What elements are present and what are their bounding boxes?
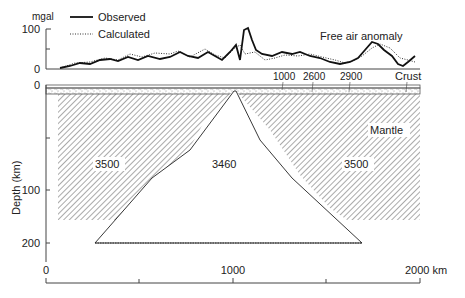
gravity-model-figure: 100 0 mgal Observed Calculated Free air … <box>0 0 465 298</box>
distance-tick-2000: 2000 km <box>405 264 447 276</box>
anomaly-title: Free air anomaly <box>320 30 403 42</box>
legend-calculated-label: Calculated <box>98 28 150 40</box>
anomaly-panel: 100 0 mgal Observed Calculated Free air … <box>22 11 420 75</box>
water-layer <box>46 85 420 88</box>
density-center-label: 3460 <box>212 158 236 170</box>
depth-tick-0: 0 <box>34 79 40 91</box>
distance-tick-0: 0 <box>43 264 49 276</box>
crust-density-2600: 2600 <box>303 71 326 82</box>
legend: Observed Calculated <box>70 11 150 40</box>
crust-label: Crust <box>395 70 421 82</box>
anomaly-tick-100: 100 <box>22 23 40 35</box>
density-left-label: 3500 <box>95 158 119 170</box>
distance-tick-1000: 1000 <box>221 264 245 276</box>
crust-density-2900: 2900 <box>340 71 363 82</box>
crust-density-1000: 1000 <box>273 71 296 82</box>
depth-tick-200: 200 <box>22 237 40 249</box>
density-model-panel: 0 100 200 Depth (km) 1000 2600 2900 Crus… <box>10 70 447 283</box>
mantle-label: Mantle <box>370 124 403 136</box>
anomaly-tick-0: 0 <box>34 63 40 75</box>
density-right-label: 3500 <box>344 158 368 170</box>
depth-tick-100: 100 <box>22 184 40 196</box>
legend-observed-label: Observed <box>98 11 146 23</box>
depth-axis-label: Depth (km) <box>10 161 22 215</box>
anomaly-unit-label: mgal <box>32 11 54 22</box>
